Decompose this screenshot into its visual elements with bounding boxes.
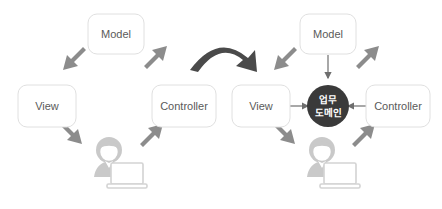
node-model-left-label: Model	[101, 28, 131, 40]
arrow-user-to-controller-right	[352, 124, 375, 147]
arrow-user-to-controller-left	[140, 124, 163, 147]
node-controller-right-label: Controller	[374, 100, 422, 112]
node-model-right[interactable]: Model	[300, 14, 356, 54]
arrow-controller-to-model-left	[144, 46, 167, 69]
node-business-domain-label-line1: 업무	[319, 94, 337, 105]
node-controller-right[interactable]: Controller	[366, 85, 430, 127]
right-panel-mvc-with-domain: Model View Controller 업무 도메인	[232, 14, 430, 188]
node-business-domain-label-line2: 도메인	[315, 107, 342, 118]
arrow-model-to-view-left	[63, 47, 86, 70]
arrow-controller-to-model-right	[356, 46, 379, 69]
diagram-canvas: Model View Controller	[0, 0, 442, 209]
node-view-right[interactable]: View	[232, 85, 290, 127]
user-with-laptop-icon-left	[94, 137, 147, 188]
node-controller-left-label: Controller	[160, 100, 208, 112]
arrow-model-to-view-right	[274, 47, 297, 70]
node-controller-left[interactable]: Controller	[152, 85, 216, 127]
user-with-laptop-icon-right	[307, 137, 360, 188]
node-business-domain[interactable]: 업무 도메인	[307, 85, 349, 127]
node-view-left[interactable]: View	[18, 85, 76, 127]
transition-arrow	[190, 47, 257, 72]
node-view-left-label: View	[35, 100, 59, 112]
mvc-comparison-diagram: Model View Controller	[0, 0, 442, 209]
left-panel-classic-mvc: Model View Controller	[18, 14, 216, 188]
node-model-right-label: Model	[313, 28, 343, 40]
node-view-right-label: View	[249, 100, 273, 112]
node-model-left[interactable]: Model	[88, 14, 144, 54]
